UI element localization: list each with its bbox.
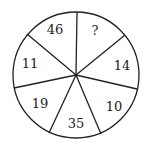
segment-10: 10 — [106, 99, 123, 114]
number-wheel-puzzle: ? 14 10 35 19 11 46 — [0, 0, 146, 149]
segment-35: 35 — [68, 116, 85, 131]
segment-19: 19 — [32, 96, 49, 111]
segment-unknown: ? — [92, 23, 99, 38]
segment-11: 11 — [22, 56, 39, 71]
segment-14: 14 — [114, 58, 131, 73]
segment-46: 46 — [47, 22, 64, 37]
